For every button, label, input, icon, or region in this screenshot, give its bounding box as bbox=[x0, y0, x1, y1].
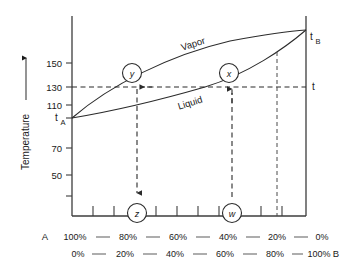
y-tick-label-110: 110 bbox=[47, 100, 62, 111]
y-tick-label-50: 50 bbox=[51, 170, 62, 181]
marker-x-group[interactable]: x bbox=[220, 64, 239, 83]
comp-a-value-2: 60% bbox=[169, 232, 187, 242]
composition-row-a: A 100% 80% 60% 40% 20% 0% bbox=[42, 231, 329, 242]
comp-b-value-3: 60% bbox=[216, 249, 234, 259]
comp-b-value-5: 100% bbox=[307, 249, 330, 259]
tie-line-label: t bbox=[312, 81, 315, 92]
ta-subscript: A bbox=[61, 118, 66, 127]
comp-a-value-0: 100% bbox=[63, 232, 86, 242]
ta-label: t bbox=[55, 112, 58, 123]
ta-label-group: t A bbox=[55, 112, 66, 127]
marker-x-label: x bbox=[226, 69, 232, 79]
comp-b-value-4: 80% bbox=[266, 249, 284, 259]
y-axis-title-group: Temperature bbox=[20, 58, 31, 170]
marker-z-group[interactable]: z bbox=[128, 204, 147, 223]
comp-b-value-1: 20% bbox=[116, 249, 134, 259]
y-axis-title: Temperature bbox=[20, 113, 31, 170]
comp-b-value-2: 40% bbox=[166, 249, 184, 259]
component-a-label: A bbox=[42, 231, 49, 242]
tb-subscript: B bbox=[316, 37, 321, 46]
comp-a-value-1: 80% bbox=[119, 232, 137, 242]
y-tick-label-150: 150 bbox=[46, 58, 62, 69]
y-tick-label-130: 130 bbox=[46, 82, 62, 93]
marker-y-group[interactable]: y bbox=[123, 64, 142, 83]
tb-label-group: t B bbox=[310, 31, 321, 46]
composition-row-b: 0% 20% 40% 60% 80% 100% B bbox=[71, 248, 339, 259]
vapor-curve-label: Vapor bbox=[179, 35, 206, 53]
liquid-curve-label: Liquid bbox=[176, 94, 203, 112]
comp-a-value-3: 40% bbox=[219, 232, 237, 242]
tb-label: t bbox=[310, 31, 313, 42]
comp-a-value-4: 20% bbox=[268, 232, 286, 242]
component-b-label: B bbox=[333, 248, 339, 259]
comp-a-value-5: 0% bbox=[315, 232, 328, 242]
marker-w-label: w bbox=[229, 209, 236, 219]
phase-diagram: Temperature 150 130 110 70 bbox=[0, 0, 340, 267]
phase-diagram-svg: Temperature 150 130 110 70 bbox=[0, 0, 340, 267]
marker-y-label: y bbox=[129, 69, 135, 79]
y-axis-ticks: 150 130 110 70 50 bbox=[46, 58, 72, 197]
comp-b-value-0: 0% bbox=[71, 249, 84, 259]
x-axis-ticks bbox=[93, 206, 282, 216]
y-tick-label-70: 70 bbox=[51, 143, 62, 154]
marker-w-group[interactable]: w bbox=[223, 204, 242, 223]
marker-z-label: z bbox=[134, 209, 140, 219]
